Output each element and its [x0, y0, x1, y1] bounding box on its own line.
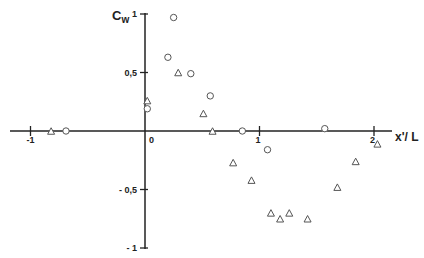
y-tick-label: 1 — [132, 9, 137, 19]
x-tick-label: 2 — [370, 135, 375, 145]
data-points — [48, 14, 381, 222]
x-tick-label: -1 — [27, 135, 35, 145]
x-tick-label: 1 — [256, 135, 261, 145]
x-tick-label: 0 — [149, 135, 154, 145]
triangle-marker — [267, 210, 274, 217]
scatter-chart: -101210,5- 0,5- 1 Cw x'/ L — [0, 0, 424, 258]
triangle-marker — [200, 110, 207, 117]
triangle-marker — [304, 216, 311, 223]
y-tick-label: 0,5 — [124, 68, 137, 78]
circle-marker — [188, 70, 194, 76]
circle-marker — [170, 14, 176, 20]
triangle-marker — [248, 177, 255, 184]
triangle-marker — [230, 159, 237, 166]
circle-marker — [144, 106, 150, 112]
triangle-marker — [352, 158, 359, 165]
x-axis-label: x'/ L — [395, 130, 419, 144]
y-tick-label: - 1 — [126, 243, 137, 253]
circle-marker — [207, 93, 213, 99]
circle-marker — [264, 147, 270, 153]
triangle-marker — [175, 69, 182, 76]
triangle-marker — [334, 184, 341, 191]
circle-marker — [165, 54, 171, 60]
y-tick-label: - 0,5 — [119, 185, 137, 195]
triangle-marker — [277, 216, 284, 223]
circle-marker — [239, 128, 245, 134]
triangle-marker — [286, 210, 293, 217]
y-axis-label: Cw — [112, 8, 129, 25]
circle-marker — [63, 128, 69, 134]
circle-marker — [322, 125, 328, 131]
